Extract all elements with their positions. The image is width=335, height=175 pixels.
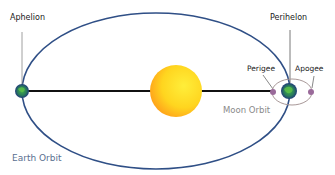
apogee-moon-dot xyxy=(308,89,314,95)
earth-aphelion xyxy=(15,84,29,98)
perigee-moon-dot xyxy=(270,89,276,95)
perihelon-label: Perihelon xyxy=(270,13,307,22)
apogee-label: Apogee xyxy=(295,64,323,73)
aphelion-label: Aphelion xyxy=(10,13,45,22)
perigee-pointer xyxy=(263,75,273,89)
moon-orbit-label: Moon Orbit xyxy=(223,105,270,115)
apogee-pointer xyxy=(312,76,314,88)
diagram-graphics xyxy=(0,0,335,175)
earth-perihelon xyxy=(281,83,297,99)
earth-orbit-label: Earth Orbit xyxy=(12,153,62,163)
sun xyxy=(150,65,202,117)
earth-orbit-diagram: Aphelion Perihelon Perigee Apogee Moon O… xyxy=(0,0,335,175)
perigee-label: Perigee xyxy=(247,64,275,73)
